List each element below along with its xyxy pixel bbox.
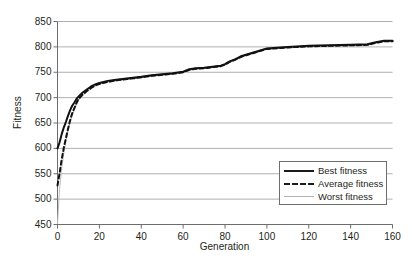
legend-item-best: Best fitness [284,164,384,177]
legend-item-average: Average fitness [284,177,384,190]
legend-line-best-icon [284,170,314,172]
x-axis-tick-label: 80 [205,232,245,242]
series-line-best [58,41,393,149]
legend-label-worst: Worst fitness [318,190,373,203]
plot-area [0,0,412,263]
legend-label-average: Average fitness [318,177,383,190]
x-axis-tick-label: 0 [38,232,78,242]
x-axis-tick-label: 100 [247,232,287,242]
legend-line-average-icon [284,183,314,185]
legend-line-worst-icon [284,196,314,197]
x-axis-tick-label: 40 [121,232,161,242]
legend-item-worst: Worst fitness [284,190,384,203]
x-axis-tick-label: 140 [331,232,371,242]
chart-legend: Best fitness Average fitness Worst fitne… [279,161,387,205]
y-axis-tick-label: 700 [12,93,52,103]
y-axis-tick-label: 450 [12,220,52,230]
x-axis-tick-label: 120 [289,232,329,242]
y-axis-tick-label: 550 [12,169,52,179]
y-axis-tick-label: 500 [12,194,52,204]
y-axis-tick-label: 600 [12,143,52,153]
x-axis-tick-label: 20 [79,232,119,242]
x-axis-tick-label: 60 [163,232,203,242]
y-axis-tick-label: 750 [12,67,52,77]
fitness-vs-generation-chart: Fitness Generation Best fitness Average … [0,0,412,263]
x-axis-tick-label: 160 [373,232,412,242]
legend-label-best: Best fitness [318,164,367,177]
y-axis-tick-label: 850 [12,17,52,27]
y-axis-tick-label: 650 [12,118,52,128]
y-axis-tick-label: 800 [12,42,52,52]
